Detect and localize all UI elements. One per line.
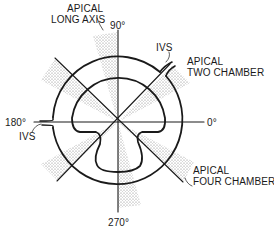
label-apical-four-chamber-1: APICAL xyxy=(193,165,229,176)
ivs-left-connector-lower xyxy=(42,125,53,128)
label-apical-two-chamber-2: TWO CHAMBER xyxy=(187,67,264,78)
label-apical-long-axis-1: APICAL xyxy=(67,3,103,14)
label-ivs-left: IVS xyxy=(19,131,35,142)
label-angle-90: 90° xyxy=(110,20,125,31)
label-angle-270: 270° xyxy=(108,217,129,228)
ivs-left-connector xyxy=(40,117,53,121)
label-apical-two-chamber-1: APICAL xyxy=(187,56,223,67)
label-apical-four-chamber-2: FOUR CHAMBER xyxy=(193,176,274,187)
leader-apical-four-chamber xyxy=(185,178,192,186)
leader-ivs-top xyxy=(166,52,170,62)
label-ivs-top: IVS xyxy=(156,42,172,53)
label-angle-0: 0° xyxy=(207,117,217,128)
echo-plane-diagram xyxy=(0,0,274,231)
label-angle-180: 180° xyxy=(5,117,26,128)
label-apical-long-axis-2: LONG AXIS xyxy=(51,14,105,25)
